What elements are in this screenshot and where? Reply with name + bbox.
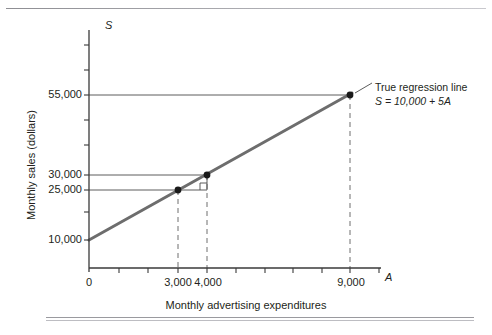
y-axis-title: Monthly sales (dollars): [25, 100, 37, 230]
y-tick-label-30000: 30,000: [36, 169, 82, 180]
data-point-3000-25000[interactable]: [175, 187, 182, 194]
axes: [89, 30, 381, 272]
y-tick-label-55000: 55,000: [36, 89, 82, 100]
y-tick-label-25000: 25,000: [36, 184, 82, 195]
annotation-equation: S = 10,000 + 5A: [375, 94, 467, 108]
data-point-4000-30000[interactable]: [204, 172, 211, 179]
y-tick-label-10000: 10,000: [36, 234, 82, 245]
x-axis-title: Monthly advertising expenditures: [0, 299, 492, 311]
projection-lines: [89, 95, 350, 190]
drop-lines: [178, 95, 350, 268]
x-axis-symbol-label: A: [385, 271, 392, 283]
regression-line: [89, 93, 352, 240]
figure-container: S A 55,000 30,000 25,000 10,000 0 3,000 …: [0, 0, 492, 335]
x-tick-label-9000: 9,000: [327, 277, 375, 288]
right-angle-square-icon: [200, 183, 207, 190]
annotation-pointer-line: [355, 83, 372, 93]
x-tick-label-0: 0: [79, 277, 99, 288]
x-tick-label-4000: 4,000: [184, 277, 232, 288]
y-axis-ticks: [84, 45, 89, 240]
data-point-9000-55000[interactable]: [347, 92, 354, 99]
regression-line-annotation: True regression line S = 10,000 + 5A: [375, 80, 467, 108]
annotation-title: True regression line: [375, 80, 467, 94]
x-axis-ticks: [119, 268, 379, 273]
y-axis-symbol-label: S: [105, 19, 112, 31]
